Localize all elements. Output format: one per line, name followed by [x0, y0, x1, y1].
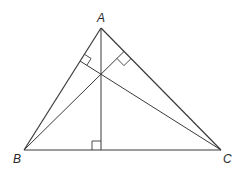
side-ab — [24, 28, 101, 150]
vertex-label-a: A — [96, 11, 105, 25]
vertex-label-c: C — [223, 152, 232, 166]
side-ac — [101, 28, 221, 150]
right-angle-mark-ab — [84, 54, 91, 65]
right-angle-mark-bc — [92, 141, 101, 150]
triangle-diagram: A B C — [0, 0, 244, 170]
right-angle-mark-ac — [117, 59, 131, 66]
altitude-from-b — [24, 52, 124, 151]
vertex-label-b: B — [13, 152, 21, 166]
